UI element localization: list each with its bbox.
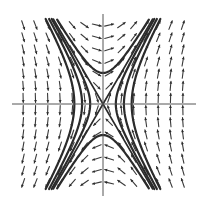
arrow-head-icon [145, 93, 148, 95]
arrow-head-icon [83, 100, 86, 103]
arrow-head-icon [46, 112, 49, 114]
arrow-head-icon [59, 100, 62, 102]
arrow-head-icon [46, 124, 49, 127]
arrow-head-icon [83, 112, 86, 115]
arrow-head-icon [169, 93, 172, 95]
arrow-head-icon [181, 105, 184, 107]
arrow-head-icon [46, 88, 49, 91]
arrow-head-icon [22, 112, 25, 114]
arrow-head-icon [120, 106, 123, 109]
arrow-head-icon [181, 118, 184, 121]
arrow-head-icon [182, 69, 185, 72]
arrow-head-icon [21, 136, 24, 139]
arrow-head-icon [157, 118, 160, 121]
arrow-head-icon [169, 118, 172, 121]
arrow-head-icon [169, 105, 172, 107]
arrow-head-icon [169, 81, 172, 84]
arrow-head-icon [181, 130, 184, 133]
arrow-head-icon [21, 124, 24, 127]
arrow-head-icon [157, 81, 160, 84]
arrow-head-icon [34, 88, 37, 91]
arrow-head-icon [34, 112, 37, 114]
arrow-head-icon [22, 76, 25, 79]
arrow-head-icon [157, 93, 160, 95]
arrow-head-icon [182, 81, 185, 84]
arrow-head-icon [144, 105, 147, 107]
arrow-head-icon [120, 93, 123, 96]
arrow-head-icon [34, 100, 37, 102]
arrow-head-icon [46, 100, 49, 102]
arrow-head-icon [22, 88, 25, 91]
slope-field-plot [0, 0, 202, 207]
arrow-head-icon [22, 100, 25, 102]
arrow-head-icon [34, 124, 37, 127]
arrow-head-icon [181, 93, 184, 95]
arrow-head-icon [58, 112, 61, 114]
arrow-head-icon [157, 105, 160, 107]
